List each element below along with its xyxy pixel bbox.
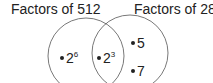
bullet-icon xyxy=(131,41,135,45)
bullet-icon xyxy=(60,56,64,60)
bullet-icon xyxy=(97,56,101,60)
bullet-icon xyxy=(131,69,135,73)
venn-circles xyxy=(0,0,213,83)
right-only-item-7: 7 xyxy=(131,63,145,79)
right-only-item-5: 5 xyxy=(131,35,145,51)
circle-right xyxy=(92,15,168,83)
left-only-item: 26 xyxy=(60,50,78,66)
intersection-item: 23 xyxy=(97,50,115,66)
